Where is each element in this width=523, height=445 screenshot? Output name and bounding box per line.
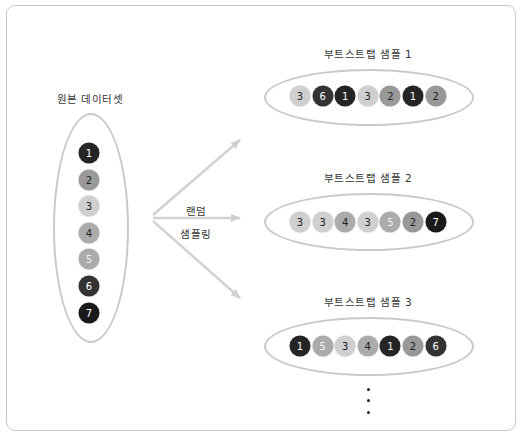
original-item-5: 5 bbox=[79, 249, 100, 270]
sample-1-item: 1 bbox=[335, 86, 356, 107]
sample-3-item: 4 bbox=[357, 336, 378, 357]
sample-3-item: 1 bbox=[380, 336, 401, 357]
sample-2-item: 3 bbox=[290, 212, 311, 233]
sampling-label: 샘플링 bbox=[180, 226, 212, 241]
sample-2-item: 5 bbox=[380, 212, 401, 233]
original-item-2: 2 bbox=[79, 169, 100, 190]
original-item-1: 1 bbox=[79, 143, 100, 164]
random-label: 랜덤 bbox=[186, 203, 207, 218]
sample-1-item: 3 bbox=[290, 86, 311, 107]
sample-3-item: 3 bbox=[335, 336, 356, 357]
sample-1-item: 3 bbox=[357, 86, 378, 107]
original-item-7: 7 bbox=[79, 302, 100, 323]
sample-3-item: 2 bbox=[403, 336, 424, 357]
sample-3-item: 6 bbox=[425, 336, 446, 357]
sample-1-item: 2 bbox=[380, 86, 401, 107]
sample-2-item: 2 bbox=[403, 212, 424, 233]
sample-2-item: 7 bbox=[425, 212, 446, 233]
original-item-6: 6 bbox=[79, 276, 100, 297]
sample-2-item: 3 bbox=[357, 212, 378, 233]
sample-3-item: 1 bbox=[290, 336, 311, 357]
original-item-3: 3 bbox=[79, 196, 100, 217]
sample-2-title: 부트스트랩 샘플 2 bbox=[324, 170, 412, 185]
sample-3-item: 5 bbox=[312, 336, 333, 357]
sample-1-title: 부트스트랩 샘플 1 bbox=[324, 46, 412, 61]
sample-3-title: 부트스트랩 샘플 3 bbox=[324, 294, 412, 309]
sample-2-item: 3 bbox=[312, 212, 333, 233]
sample-1-item: 1 bbox=[403, 86, 424, 107]
sample-2-item: 4 bbox=[335, 212, 356, 233]
sample-1-item: 6 bbox=[312, 86, 333, 107]
sample-1-item: 2 bbox=[425, 86, 446, 107]
original-item-4: 4 bbox=[79, 222, 100, 243]
